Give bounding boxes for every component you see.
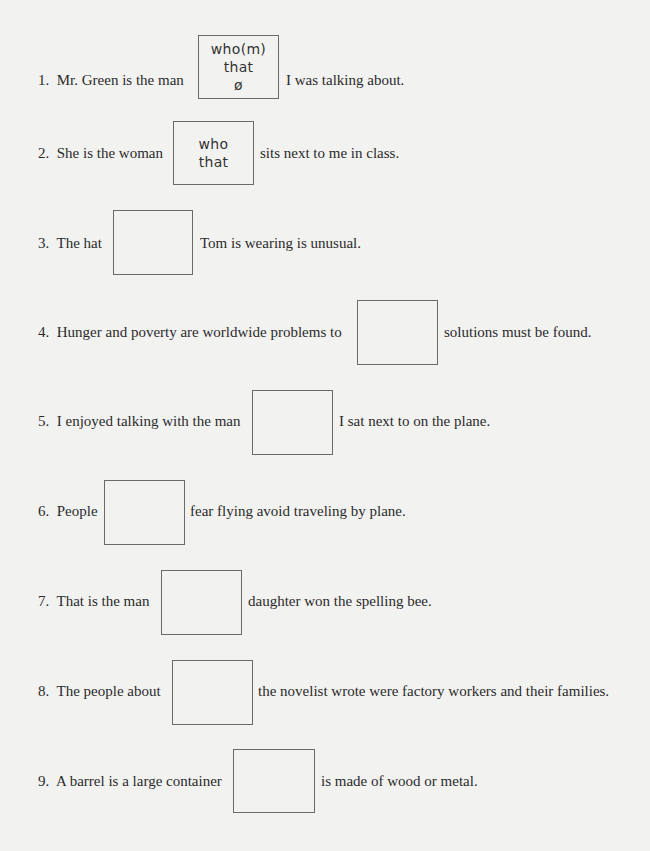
item-number: 2. <box>38 145 49 161</box>
sentence-start: Mr. Green is the man <box>57 72 184 88</box>
sentence-start: People <box>57 503 98 519</box>
answer-zero: ø <box>234 76 243 94</box>
answer-box-9[interactable] <box>233 749 315 813</box>
answer-box-5[interactable] <box>252 390 333 455</box>
item-1-before: 1. Mr. Green is the man <box>38 71 184 89</box>
answer-box-2[interactable]: who that <box>173 121 254 185</box>
answer-who-m: who(m) <box>211 40 266 58</box>
sentence-start: That is the man <box>56 593 149 609</box>
sentence-end: daughter won the spelling bee. <box>248 592 432 610</box>
sentence-end: is made of wood or metal. <box>321 772 478 790</box>
answer-box-8[interactable] <box>172 660 253 725</box>
sentence-end: the novelist wrote were factory workers … <box>258 682 609 700</box>
item-number: 9. <box>38 773 49 789</box>
item-3-before: 3. The hat <box>38 234 102 252</box>
item-number: 7. <box>38 593 49 609</box>
answer-that: that <box>199 153 229 171</box>
sentence-start: The hat <box>56 235 101 251</box>
item-number: 5. <box>38 413 49 429</box>
item-4-before: 4. Hunger and poverty are worldwide prob… <box>38 323 342 341</box>
item-5-before: 5. I enjoyed talking with the man <box>38 412 240 430</box>
item-number: 1. <box>38 72 49 88</box>
answer-box-4[interactable] <box>357 300 438 365</box>
answer-who: who <box>199 135 229 153</box>
item-7-before: 7. That is the man <box>38 592 149 610</box>
item-number: 4. <box>38 324 49 340</box>
sentence-end: fear flying avoid traveling by plane. <box>190 502 406 520</box>
sentence-end: I sat next to on the plane. <box>339 412 490 430</box>
item-2-before: 2. She is the woman <box>38 144 163 162</box>
item-9-before: 9. A barrel is a large container <box>38 772 222 790</box>
sentence-start: The people about <box>56 683 160 699</box>
answer-box-3[interactable] <box>113 210 193 275</box>
item-number: 6. <box>38 503 49 519</box>
item-number: 8. <box>38 683 49 699</box>
item-8-before: 8. The people about <box>38 682 161 700</box>
sentence-end: Tom is wearing is unusual. <box>200 234 361 252</box>
item-6-before: 6. People <box>38 502 98 520</box>
sentence-end: I was talking about. <box>286 71 404 89</box>
answer-box-1[interactable]: who(m) that ø <box>198 35 279 99</box>
answer-box-6[interactable] <box>104 480 185 545</box>
sentence-start: She is the woman <box>57 145 163 161</box>
sentence-start: Hunger and poverty are worldwide problem… <box>57 324 342 340</box>
sentence-end: solutions must be found. <box>444 323 592 341</box>
answer-that: that <box>224 58 254 76</box>
answer-box-7[interactable] <box>161 570 242 635</box>
sentence-end: sits next to me in class. <box>260 144 399 162</box>
sentence-start: A barrel is a large container <box>56 773 222 789</box>
sentence-start: I enjoyed talking with the man <box>57 413 241 429</box>
item-number: 3. <box>38 235 49 251</box>
